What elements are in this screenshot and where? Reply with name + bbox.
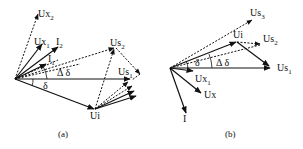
ui-ray (95, 86, 132, 109)
label-ux1: Ux1 (195, 73, 211, 87)
ui-to-us1 (237, 42, 269, 66)
label-ui: Ui (90, 110, 100, 121)
tip-line (132, 74, 140, 80)
panel-b: Us3 Ui Us2 Us1 Ux1 Ux I δ Δ δ (b) (170, 7, 292, 139)
angle-delta-delta-arc (209, 54, 212, 68)
label-delta-delta: Δ δ (57, 67, 70, 78)
label-i: I (183, 113, 186, 124)
ui-ray (95, 96, 136, 109)
caption-b: (b) (225, 129, 236, 139)
label-us3: Us3 (250, 7, 265, 21)
angle-delta-arc (32, 79, 33, 86)
label-delta-delta: Δ δ (216, 57, 229, 68)
label-ux2: Ux2 (38, 8, 54, 22)
phasor-ui (15, 79, 94, 109)
label-us1: Us1 (277, 62, 292, 76)
phasor-diagram: Ux2 Ux1 I2 I1 Us2 Us1 Ui Δ δ δ (a) (0, 0, 303, 149)
label-us1: Us1 (118, 66, 133, 80)
label-ux1: Ux1 (34, 36, 50, 50)
label-delta: δ (195, 57, 200, 68)
ui-to-us2 (237, 42, 260, 44)
label-delta: δ (43, 80, 48, 91)
label-us2: Us2 (263, 33, 278, 47)
caption-a: (a) (58, 129, 68, 139)
angle-delta-arc (186, 61, 188, 68)
label-ui: Ui (233, 29, 243, 40)
label-i1: I1 (48, 53, 55, 67)
ui-ray (95, 91, 134, 109)
panel-a: Ux2 Ux1 I2 I1 Us2 Us1 Ui Δ δ δ (a) (15, 8, 140, 139)
label-ux: Ux (204, 89, 216, 100)
